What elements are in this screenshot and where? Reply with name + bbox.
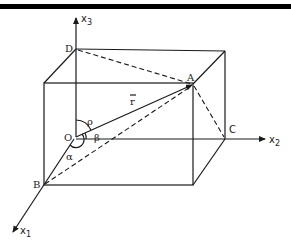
point-c-label: C xyxy=(229,124,236,135)
x3-axis-label: x3 xyxy=(81,13,92,27)
x2-axis-label: x2 xyxy=(269,134,280,148)
point-d-label: D xyxy=(65,43,73,54)
vector-r xyxy=(76,85,192,137)
angle-rho-label: ρ xyxy=(87,116,93,127)
angle-alpha-label: α xyxy=(66,151,73,162)
angle-arc-beta xyxy=(85,133,86,139)
dashed-a-to-c xyxy=(194,86,224,137)
angle-beta-label: β xyxy=(94,132,100,143)
vector-direction-angle-diagram: x3 x2 x1 D A C O B r ρ β α xyxy=(0,0,291,249)
box-edge-c-front xyxy=(193,139,225,185)
point-a-label: A xyxy=(186,72,195,83)
top-border-bar xyxy=(0,4,291,9)
box-back-top-edge xyxy=(76,49,225,51)
vector-r-label: r xyxy=(130,96,135,107)
x1-axis-label: x1 xyxy=(20,225,31,239)
box-edge-d-front xyxy=(44,49,76,83)
dashed-d-to-a xyxy=(78,50,192,84)
point-b-label: B xyxy=(33,179,40,190)
point-o-label: O xyxy=(64,132,72,143)
box-edge-back-front-top xyxy=(193,51,225,84)
